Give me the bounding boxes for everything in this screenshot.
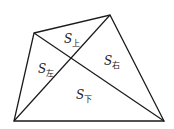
label-s-bottom: S下 — [76, 89, 92, 104]
label-s-top: S上 — [64, 33, 80, 48]
quadrilateral-figure — [0, 0, 174, 129]
label-s-right: S右 — [104, 55, 120, 70]
diagram: S上 S左 S右 S下 — [0, 0, 174, 129]
diagonal-bd — [14, 15, 110, 121]
label-s-left: S左 — [38, 63, 54, 78]
